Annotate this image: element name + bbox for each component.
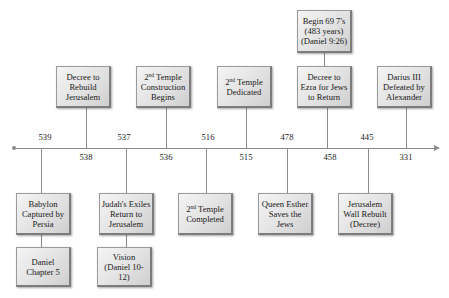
year-label-478: 478 bbox=[272, 132, 302, 142]
connector-516 bbox=[206, 149, 207, 193]
event-text: Decree to Ezra for Jews to Return bbox=[299, 72, 349, 102]
timeline-arrow-icon bbox=[434, 145, 440, 151]
connector-458 bbox=[327, 108, 328, 148]
connector-478 bbox=[287, 149, 288, 193]
event-text: Jerusalem Wall Rebuilt (Decree) bbox=[340, 199, 390, 229]
event-temple-construction: 2nd Temple Construction Begins bbox=[136, 66, 191, 108]
event-text: 2nd Temple Completed bbox=[180, 204, 230, 224]
year-label-331: 331 bbox=[391, 152, 421, 162]
connector-vision bbox=[126, 235, 127, 247]
event-decree-rebuild: Decree to Rebuild Jerusalem bbox=[56, 66, 111, 108]
event-darius-defeated: Darius III Defeated by Alexander bbox=[377, 66, 432, 108]
year-label-536: 536 bbox=[151, 152, 181, 162]
event-text: Begin 69 7's (483 years) (Daniel 9:26) bbox=[299, 16, 349, 46]
year-label-539: 539 bbox=[30, 132, 60, 142]
event-text: Judah's Exiles Return to Jerusalem bbox=[101, 199, 151, 229]
event-text: Queen Esther Saves the Jews bbox=[260, 199, 310, 229]
year-label-445: 445 bbox=[352, 132, 382, 142]
year-label-537: 537 bbox=[109, 132, 139, 142]
event-esther: Queen Esther Saves the Jews bbox=[258, 193, 313, 235]
event-decree-ezra: Decree to Ezra for Jews to Return bbox=[297, 66, 352, 108]
timeline-axis bbox=[14, 148, 436, 149]
event-text: Decree to Rebuild Jerusalem bbox=[58, 72, 108, 102]
event-text: 2nd Temple Construction Begins bbox=[138, 72, 188, 102]
event-begin-69-sevens: Begin 69 7's (483 years) (Daniel 9:26) bbox=[297, 10, 352, 53]
connector-daniel-5 bbox=[41, 235, 42, 247]
year-label-458: 458 bbox=[315, 152, 345, 162]
event-exiles-return: Judah's Exiles Return to Jerusalem bbox=[99, 193, 154, 235]
event-temple-completed: 2nd Temple Completed bbox=[178, 193, 233, 235]
event-babylon-captured: Babylon Captured by Persia bbox=[16, 193, 71, 235]
event-temple-dedicated: 2nd Temple Dedicated bbox=[217, 66, 272, 108]
event-vision-daniel: Vision (Daniel 10-12) bbox=[97, 247, 152, 287]
event-text: 2nd Temple Dedicated bbox=[219, 77, 269, 97]
connector-539 bbox=[41, 149, 42, 193]
event-text: Vision (Daniel 10-12) bbox=[99, 252, 149, 282]
year-label-516: 516 bbox=[193, 132, 223, 142]
connector-515 bbox=[246, 108, 247, 148]
connector-445 bbox=[368, 149, 369, 193]
connector-begin-69 bbox=[324, 52, 325, 66]
event-daniel-5: Daniel Chapter 5 bbox=[16, 247, 71, 287]
event-text: Daniel Chapter 5 bbox=[18, 257, 68, 277]
connector-538 bbox=[86, 108, 87, 148]
connector-331 bbox=[406, 108, 407, 148]
event-wall-rebuilt: Jerusalem Wall Rebuilt (Decree) bbox=[338, 193, 393, 235]
connector-537 bbox=[126, 149, 127, 193]
year-label-515: 515 bbox=[231, 152, 261, 162]
event-text: Babylon Captured by Persia bbox=[18, 199, 68, 229]
year-label-538: 538 bbox=[71, 152, 101, 162]
event-text: Darius III Defeated by Alexander bbox=[379, 72, 429, 102]
connector-536 bbox=[166, 108, 167, 148]
